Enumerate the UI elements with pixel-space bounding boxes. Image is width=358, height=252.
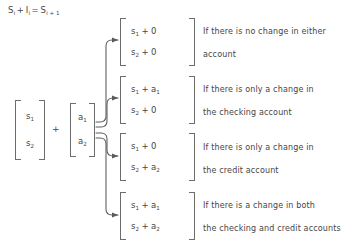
term-left: s1 <box>131 85 139 94</box>
matrix-rows: s1+0 s2+0 <box>126 18 189 66</box>
subscript: 1 <box>156 205 160 211</box>
result-matrix-credit-only: s1+0 s2+a2 <box>120 133 195 181</box>
matrix-bracket-right <box>89 103 95 157</box>
equation-rhs-state: Si + 1 <box>41 5 60 15</box>
term-right: 0 <box>151 106 162 115</box>
matrix-bracket-right <box>189 133 195 181</box>
matrix-row: a2 <box>78 137 87 146</box>
term-operator: + <box>139 85 151 94</box>
subscript: 2 <box>135 167 139 173</box>
matrix-row: a1 <box>78 113 87 122</box>
equation-plus-operator: + <box>15 5 25 15</box>
result-matrix-no-change: s1+0 s2+0 <box>120 18 195 66</box>
matrix-row: s1+0 <box>131 27 189 36</box>
term-left: s2 <box>131 106 139 115</box>
term-operator: + <box>139 48 151 57</box>
connector-no-change <box>96 40 118 122</box>
term-operator: + <box>139 201 151 210</box>
subscript: 1 <box>135 205 139 211</box>
subscript: 2 <box>135 52 139 58</box>
subscript: 1 <box>135 89 139 95</box>
description-checking-only: If there is only a change in the checkin… <box>203 78 355 124</box>
subscript: 2 <box>156 167 160 173</box>
matrix-row: s2 <box>26 139 34 148</box>
description-line: If there is only a change in <box>203 136 355 159</box>
term-operator: + <box>139 163 151 172</box>
subscript: 2 <box>156 226 160 232</box>
matrix-row: s1 <box>26 112 34 121</box>
matrix-bracket-right <box>189 18 195 66</box>
matrix-row: s2+a2 <box>131 222 189 231</box>
description-line: the checking and credit accounts <box>203 217 355 240</box>
term-operator: + <box>139 27 151 36</box>
description-line: If there is no change in either <box>203 20 355 43</box>
description-line: If there is only a change in <box>203 78 355 101</box>
matrix-bracket-right <box>189 76 195 124</box>
subscript: 2 <box>30 143 34 149</box>
matrix-row: s2+0 <box>131 106 189 115</box>
term-operator: + <box>139 106 151 115</box>
description-line: If there is a change in both <box>203 194 355 217</box>
subscript: 2 <box>83 141 87 147</box>
connector-both-accounts <box>96 138 118 215</box>
connector-credit-only <box>96 133 118 156</box>
state-transition-equation: Si+Ii=Si + 1 <box>8 5 60 15</box>
action-vector-matrix: a1 a2 <box>70 103 95 157</box>
term-left: s1 <box>131 142 139 151</box>
term-right: 0 <box>151 142 162 151</box>
equation-rhs-state-subscript: i + 1 <box>46 10 59 16</box>
term-right: a1 <box>151 201 162 210</box>
matrix-rows: s1+0 s2+a2 <box>126 133 189 181</box>
diagram-canvas: Si+Ii=Si + 1 s1 s2 + <box>0 0 358 252</box>
operand-plus-symbol: + <box>52 124 60 134</box>
subscript: 1 <box>135 146 139 152</box>
term-operator: + <box>139 142 151 151</box>
subscript: 1 <box>135 31 139 37</box>
term-right: a1 <box>151 85 162 94</box>
term-left: s1 <box>131 27 139 36</box>
matrix-row: s2+a2 <box>131 163 189 172</box>
result-matrix-both-accounts: s1+a1 s2+a2 <box>120 192 195 240</box>
term-right: a2 <box>151 222 162 231</box>
term-left: s2 <box>131 163 139 172</box>
equation-equals-operator: = <box>30 5 40 15</box>
matrix-row: s2+0 <box>131 48 189 57</box>
matrix-bracket-right <box>39 100 45 160</box>
term-operator: + <box>139 222 151 231</box>
matrix-rows: s1+a1 s2+a2 <box>126 192 189 240</box>
description-line: the credit account <box>203 159 355 182</box>
matrix-bracket-right <box>189 192 195 240</box>
connector-checking-only <box>96 98 118 127</box>
subscript: 1 <box>30 116 34 122</box>
result-matrix-checking-only: s1+a1 s2+0 <box>120 76 195 124</box>
matrix-row: s1+a1 <box>131 201 189 210</box>
term-right: a2 <box>151 163 162 172</box>
matrix-rows: a1 a2 <box>76 103 89 157</box>
subscript: 2 <box>135 226 139 232</box>
matrix-row: s1+0 <box>131 142 189 151</box>
term-left: s2 <box>131 48 139 57</box>
subscript: 1 <box>83 117 87 123</box>
term-left: s2 <box>131 222 139 231</box>
matrix-rows: s1 s2 <box>21 100 39 160</box>
subscript: 1 <box>156 89 160 95</box>
description-credit-only: If there is only a change in the credit … <box>203 136 355 182</box>
equation-lhs-input-subscript: i <box>29 10 31 16</box>
state-vector-matrix: s1 s2 <box>15 100 45 160</box>
description-both-accounts: If there is a change in both the checkin… <box>203 194 355 240</box>
description-line: the checking account <box>203 101 355 124</box>
term-right: 0 <box>151 27 162 36</box>
term-right: 0 <box>151 48 162 57</box>
term-left: s1 <box>131 201 139 210</box>
description-no-change: If there is no change in either account <box>203 20 355 66</box>
subscript: 2 <box>135 110 139 116</box>
matrix-row: s1+a1 <box>131 85 189 94</box>
matrix-rows: s1+a1 s2+0 <box>126 76 189 124</box>
description-line: account <box>203 43 355 66</box>
